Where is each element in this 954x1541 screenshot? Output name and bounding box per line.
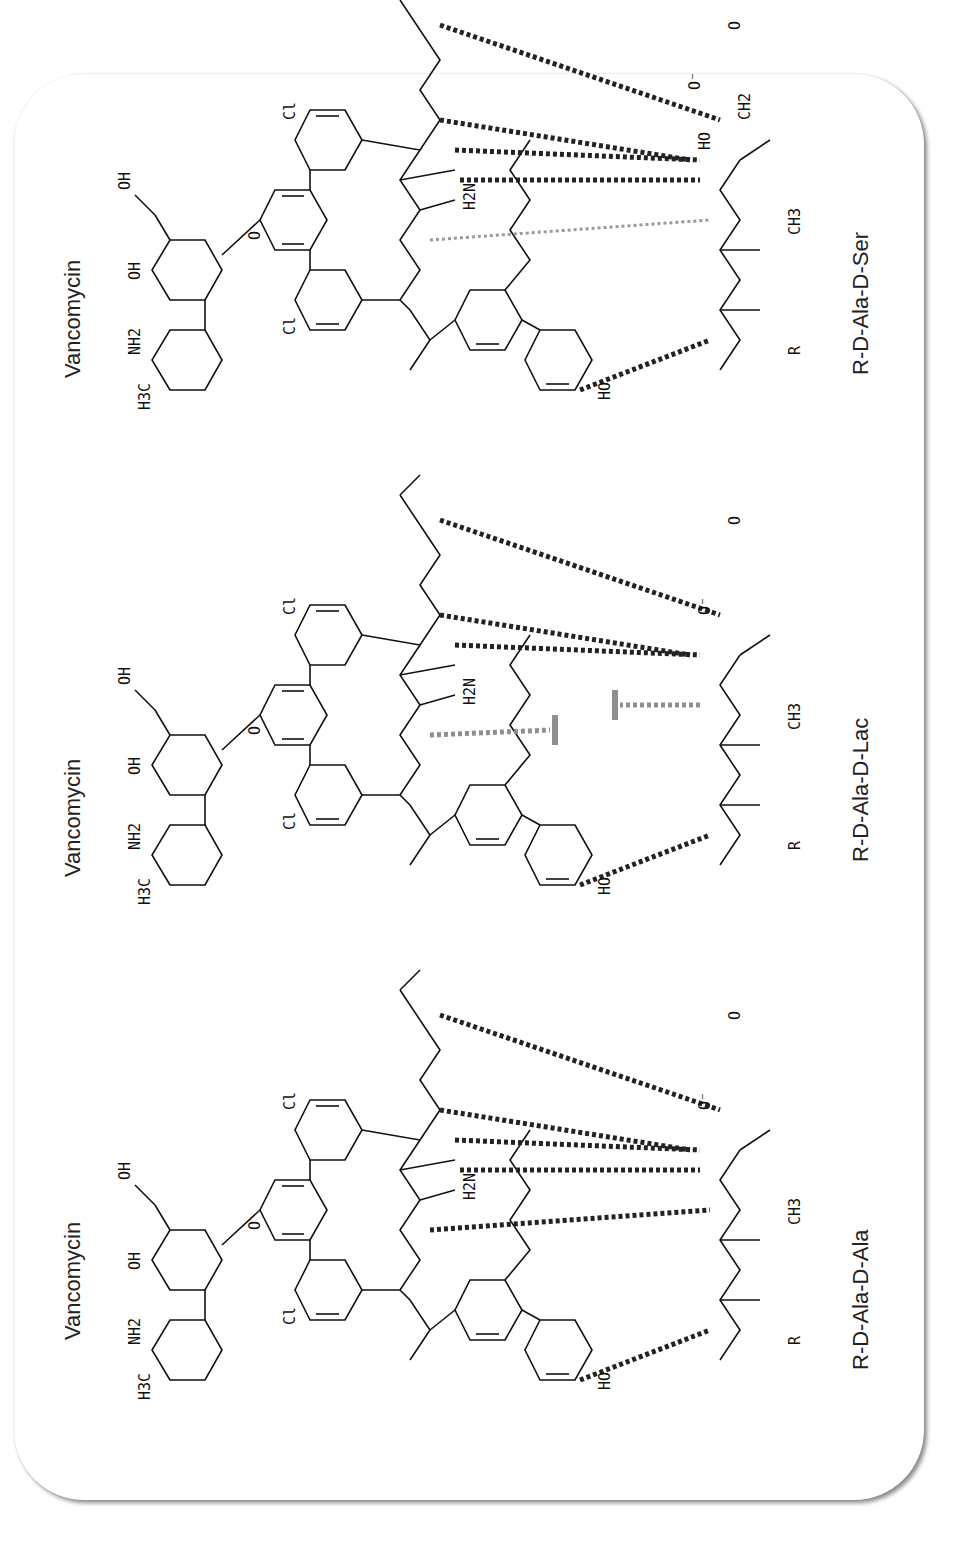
svg-text:OH: OH — [116, 1162, 134, 1180]
panel-1-structure: H3CNH2 OHOH ClCl O H2NHO RCH3 O⁻O — [116, 970, 804, 1400]
svg-text:H3C: H3C — [136, 1373, 154, 1400]
svg-text:Cl: Cl — [281, 1092, 299, 1110]
svg-text:CH3: CH3 — [786, 1198, 804, 1225]
vancomycin-diagram: H3CNH2 OHOH ClCl O H2NHO RCH3 O⁻O H3CNH2 — [0, 0, 954, 1541]
svg-text:R: R — [786, 1335, 804, 1345]
svg-text:OH: OH — [116, 667, 134, 685]
svg-text:R: R — [786, 345, 804, 355]
svg-text:O⁻: O⁻ — [696, 1092, 714, 1110]
svg-text:O⁻: O⁻ — [686, 72, 704, 90]
svg-text:NH2: NH2 — [126, 823, 144, 850]
svg-text:O: O — [246, 726, 264, 735]
svg-text:H2N: H2N — [461, 678, 479, 705]
svg-text:CH2: CH2 — [736, 93, 754, 120]
svg-text:H3C: H3C — [136, 878, 154, 905]
svg-text:Cl: Cl — [281, 1307, 299, 1325]
svg-text:H2N: H2N — [461, 1173, 479, 1200]
svg-text:CH3: CH3 — [786, 208, 804, 235]
svg-text:HO: HO — [596, 1372, 614, 1390]
svg-text:Cl: Cl — [281, 317, 299, 335]
svg-text:O: O — [246, 1221, 264, 1230]
svg-text:NH2: NH2 — [126, 328, 144, 355]
svg-text:R: R — [786, 840, 804, 850]
svg-text:Cl: Cl — [281, 102, 299, 120]
svg-text:Cl: Cl — [281, 597, 299, 615]
svg-text:HO: HO — [696, 132, 714, 150]
svg-text:O: O — [726, 516, 744, 525]
svg-text:O⁻: O⁻ — [696, 597, 714, 615]
svg-text:HO: HO — [596, 382, 614, 400]
svg-text:NH2: NH2 — [126, 1318, 144, 1345]
svg-text:OH: OH — [126, 262, 144, 280]
panel-2-structure: H3CNH2 OHOH ClCl O H2NHO RCH3 O⁻O — [116, 475, 804, 905]
svg-text:O: O — [726, 21, 744, 30]
svg-text:OH: OH — [126, 1252, 144, 1270]
svg-text:HO: HO — [596, 877, 614, 895]
svg-text:CH3: CH3 — [786, 703, 804, 730]
svg-text:H3C: H3C — [136, 383, 154, 410]
svg-text:O: O — [246, 231, 264, 240]
svg-text:H2N: H2N — [461, 183, 479, 210]
svg-text:O: O — [726, 1011, 744, 1020]
panel-3-structure: H3CNH2 OHOH ClCl O H2NHO RCH3 CH2HO O⁻O — [116, 0, 804, 410]
svg-text:Cl: Cl — [281, 812, 299, 830]
svg-text:OH: OH — [126, 757, 144, 775]
svg-text:OH: OH — [116, 172, 134, 190]
